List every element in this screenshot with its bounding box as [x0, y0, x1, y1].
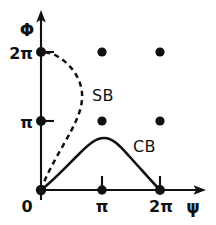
lattice-point-pi-0 — [97, 185, 106, 194]
x-axis-label: ψ — [186, 197, 200, 217]
lattice-point-2pi-pi — [155, 116, 164, 125]
x-tick-label-0: 0 — [21, 197, 32, 216]
lattice-point-pi-pi — [97, 116, 106, 125]
lattice-point-0-2pi — [36, 47, 46, 57]
superfluid-boundary-label: SB — [92, 86, 114, 105]
lattice-point-2pi-0 — [155, 185, 165, 195]
phase-diagram-plot: Φ ψ 2π π 0 π 2π SB CB — [0, 0, 216, 225]
x-tick-label-2pi: 2π — [149, 197, 173, 216]
lattice-point-0-pi — [36, 116, 46, 126]
commensurate-boundary-label: CB — [133, 137, 156, 156]
y-axis-label: Φ — [20, 20, 34, 40]
phase-diagram-figure: Φ ψ 2π π 0 π 2π SB CB — [0, 0, 216, 225]
y-tick-label-pi: π — [20, 113, 33, 132]
lattice-point-2pi-2pi — [155, 47, 164, 56]
lattice-point-0-0 — [36, 185, 46, 195]
y-tick-label-2pi: 2π — [9, 44, 33, 63]
x-tick-label-pi: π — [96, 197, 109, 216]
lattice-point-pi-2pi — [97, 47, 106, 56]
